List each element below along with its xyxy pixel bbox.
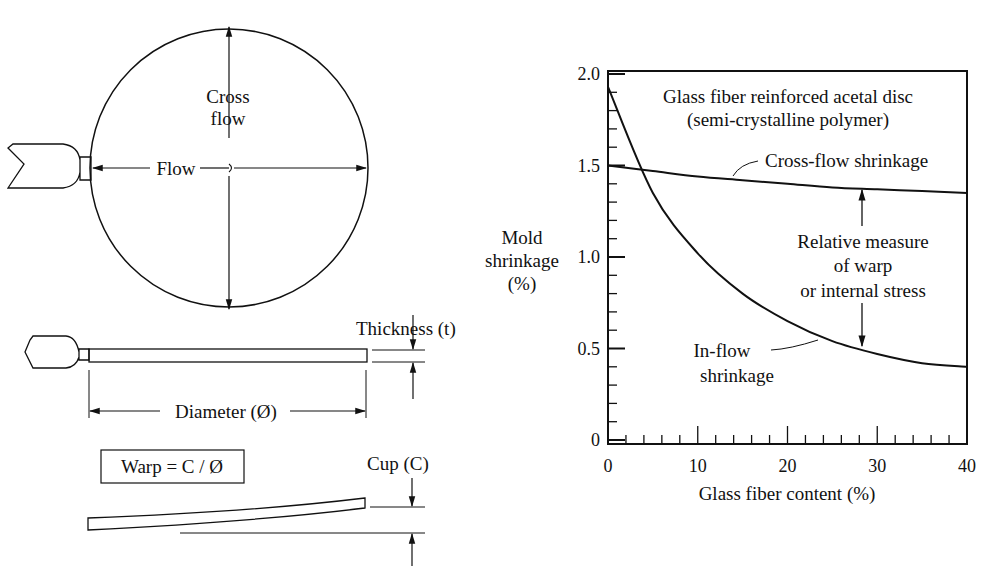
in-flow-label-1: In-flow [694,340,751,361]
thickness-label: Thickness (t) [356,318,456,340]
cross-flow-legend-label: Cross-flow shrinkage [765,150,928,171]
x-tick-label: 20 [779,456,797,476]
y-tick-label: 2.0 [578,64,601,84]
y-axis-label-1: Mold [501,227,543,248]
cup-label: Cup (C) [367,453,429,475]
nozzle-side-icon [25,336,89,368]
flow-label: Flow [156,158,195,179]
warp-formula: Warp = C / Ø [121,456,223,477]
x-tick-label: 10 [689,456,707,476]
warp-measure-label-2: of warp [834,255,893,276]
nozzle-icon [8,144,91,188]
y-tick-label: 1.0 [578,247,601,267]
x-tick-label: 0 [604,456,613,476]
y-axis-label-3: (%) [508,273,536,295]
warp-view: Warp = C / Ø Cup (C) [88,450,429,566]
x-axis-label: Glass fiber content (%) [699,483,876,505]
y-tick-label: 0.5 [578,339,601,359]
diameter-label: Diameter (Ø) [175,401,277,423]
y-axis-tick-labels: 00.51.01.52.0 [578,64,601,450]
x-axis-tick-labels: 010203040 [604,456,977,476]
in-flow-label-2: shrinkage [700,365,774,386]
x-axis-ticks [626,426,949,444]
y-axis-label-2: shrinkage [485,250,559,271]
cross-flow-label-2: flow [211,108,246,129]
figure-canvas: Cross flow Flow Thickness (t) Diameter (… [0,0,988,588]
disc-top-view: Cross flow Flow [8,27,368,309]
y-axis-ticks [608,74,625,440]
disc-profile [89,349,367,362]
x-tick-label: 40 [958,456,976,476]
y-tick-label: 0 [591,430,600,450]
x-tick-label: 30 [868,456,886,476]
warp-measure-label-1: Relative measure [797,231,928,252]
chart-title: Glass fiber reinforced acetal disc [663,86,913,107]
y-tick-label: 1.5 [578,156,601,176]
warp-measure-label-3: or internal stress [800,280,926,301]
shrinkage-chart: 00.51.01.52.0 010203040 Glass fiber rein… [485,64,976,505]
disc-side-view: Thickness (t) Diameter (Ø) [25,315,456,423]
warped-disc [88,498,365,530]
cross-flow-label: Cross [206,86,249,107]
chart-subtitle: (semi-crystalline polymer) [687,109,889,131]
